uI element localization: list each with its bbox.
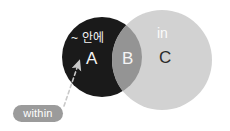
venn-diagram-canvas: ~ 안에 A B in C within [0, 0, 230, 131]
within-callout-label: within [23, 108, 52, 119]
within-callout-pill: within [13, 105, 63, 122]
